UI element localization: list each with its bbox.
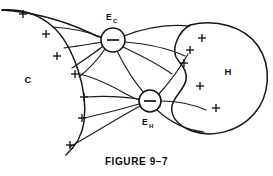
region-label-h: H bbox=[225, 66, 232, 77]
field-line-c4-ec bbox=[79, 49, 105, 77]
node-ec[interactable] bbox=[101, 28, 125, 52]
field-line-c3-ec bbox=[72, 46, 103, 68]
plus-mark-h-2 bbox=[186, 46, 194, 54]
region-h-boundary bbox=[172, 23, 268, 134]
field-line-c2-ec bbox=[64, 42, 102, 48]
node-ec-label-sub: C bbox=[113, 18, 118, 24]
region-h-outline bbox=[172, 23, 268, 134]
field-line-c7-eh bbox=[70, 106, 140, 147]
field-line-ec-eh bbox=[117, 51, 145, 94]
figure-container: C H E C E H FIGURE 9–7 bbox=[0, 0, 273, 176]
field-line-ec-h3 bbox=[123, 47, 172, 74]
plus-mark-h-5 bbox=[212, 104, 220, 112]
figure-caption: FIGURE 9–7 bbox=[0, 156, 273, 167]
node-eh-label-sub: H bbox=[149, 123, 153, 129]
region-c-top-edge bbox=[2, 10, 104, 39]
node-eh-label-main: E bbox=[142, 117, 148, 127]
plus-mark-h-1 bbox=[198, 34, 206, 42]
region-label-c: C bbox=[25, 74, 32, 85]
node-ec-label: E C bbox=[106, 12, 118, 24]
plus-mark-c-3 bbox=[53, 52, 61, 60]
plus-mark-c-2 bbox=[42, 30, 50, 38]
node-ec-label-main: E bbox=[106, 12, 112, 22]
figure-diagram-svg: C H E C E H bbox=[0, 0, 273, 176]
plus-mark-c-5 bbox=[80, 93, 88, 101]
plus-mark-h-4 bbox=[196, 82, 204, 90]
field-line-c5-eh bbox=[85, 96, 138, 99]
node-eh-label: E H bbox=[142, 117, 153, 129]
node-eh[interactable] bbox=[139, 90, 161, 112]
field-line-eh-h2 bbox=[161, 101, 206, 110]
field-line-eh-h3 bbox=[157, 110, 204, 132]
region-c-outer-curve bbox=[2, 10, 85, 155]
region-c-boundary bbox=[2, 10, 104, 155]
